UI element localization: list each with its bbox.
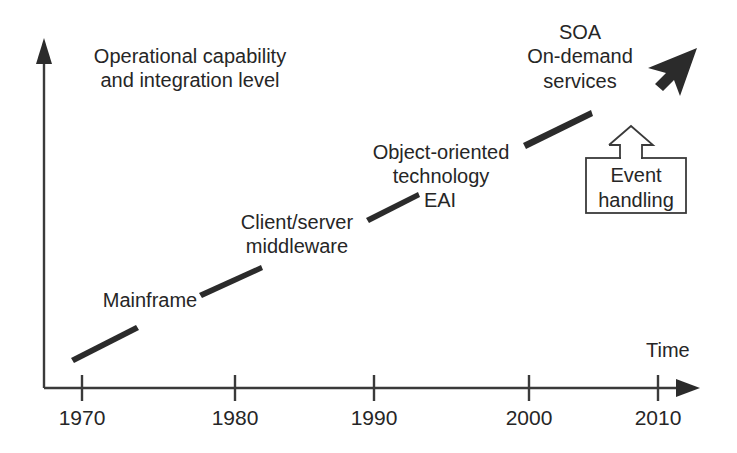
stage-object-oriented-line1: Object-oriented [373,140,510,164]
event-handling-label: Event handling [588,163,684,213]
stage-eai-text: EAI [424,188,456,212]
tick-label-1990: 1990 [351,405,398,431]
stage-label-eai: EAI [424,188,456,212]
growth-arrow-icon [648,48,697,96]
evolution-timeline-diagram: Operational capability and integration l… [0,0,737,453]
stage-soa-line3: services [527,69,633,93]
stage-label-client-server: Client/server middleware [241,210,353,259]
stage-client-server-line1: Client/server [241,210,353,234]
event-handling-line2: handling [588,188,684,213]
stage-client-server-line2: middleware [241,234,353,258]
stage-mainframe-line1: Mainframe [103,288,197,312]
tick-label-1980: 1980 [212,405,259,431]
tick-label-2010: 2010 [635,405,682,431]
stage-soa-line2: On-demand [527,44,633,68]
event-handling-line1: Event [588,163,684,188]
trend-segment-soa [523,110,593,149]
y-axis-title-line2: and integration level [94,68,286,92]
y-axis-title-line1: Operational capability [94,44,286,68]
stage-label-mainframe: Mainframe [103,288,197,312]
stage-soa-line1: SOA [527,20,633,44]
tick-label-1970: 1970 [59,405,106,431]
event-handling-pointer-arrow-icon [609,126,653,158]
y-axis-arrow-icon [36,38,52,64]
stage-label-object-oriented: Object-oriented technology [373,140,510,189]
trend-segment-mainframe [71,325,139,363]
stage-object-oriented-line2: technology [373,164,510,188]
tick-label-2000: 2000 [506,405,553,431]
trend-segment-client-server [199,265,263,298]
x-axis-arrow-icon [676,379,700,397]
x-axis-title: Time [646,338,690,362]
y-axis-title: Operational capability and integration l… [94,44,286,93]
stage-label-soa: SOA On-demand services [527,20,633,93]
trend-segment-object-oriented [366,192,420,223]
